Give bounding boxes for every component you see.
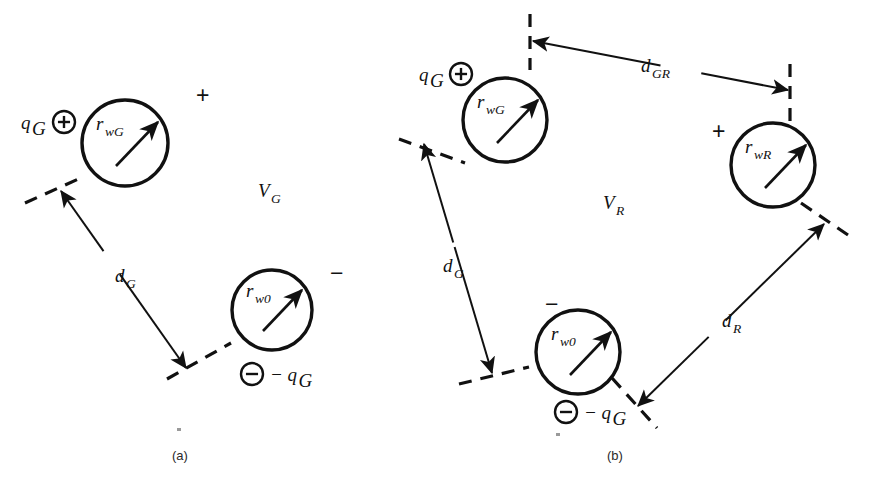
panel-b-conductor-rwg: rwG <box>463 78 547 162</box>
panel-b-tangent-dr-top <box>801 203 848 235</box>
panel-b-conductor-rwg-outline <box>463 78 547 162</box>
print-speck <box>177 428 181 431</box>
specks-layer <box>177 428 560 436</box>
panel-b-caption: (b) <box>607 448 623 463</box>
panel-a-charge-positive-qg-charge-symbol <box>53 111 75 133</box>
panel-a-distance-dg-segment-start <box>61 191 104 251</box>
panel-a-tangent-upper <box>25 176 85 203</box>
panel-a-conductor-rw0-outline <box>232 270 312 350</box>
panel-a-distance-dg-label: dG <box>115 265 136 291</box>
panel-a-polarity-minus: − <box>330 260 343 286</box>
panel-a-conductor-rw0: rw0 <box>232 270 312 350</box>
panel-b-charge-positive-qg-charge-symbol <box>450 63 472 85</box>
panels-layer: dGrwGrw0qG− qG+−VG(a)dGRdGdRrwGrwRrw0qG−… <box>21 14 848 463</box>
panel-b-distance-dr-segment-start <box>638 337 709 406</box>
panel-b-tangent-dg-top <box>399 139 465 163</box>
panel-a-tangent-lower <box>167 343 231 379</box>
panel-a-polarity-plus: + <box>196 82 209 108</box>
panel-a-charge-negative-qg-label: − qG <box>270 364 313 391</box>
panel-a: dGrwGrw0qG− qG+−VG(a) <box>21 82 343 463</box>
panel-b-potential-label: VR <box>603 192 625 218</box>
panel-a-caption: (a) <box>172 448 188 463</box>
electrostatic-configuration-figure: dGrwGrw0qG− qG+−VG(a)dGRdGdRrwGrwRrw0qG−… <box>0 0 876 491</box>
panel-b-tangent-dg-bottom <box>459 367 529 384</box>
print-speck <box>556 433 560 436</box>
panel-b-polarity-minus: − <box>545 291 558 317</box>
panel-b-polarity-plus: + <box>712 118 725 144</box>
panel-a-conductor-rwg-outline <box>82 100 168 186</box>
panel-b-conductor-rw0-outline <box>536 310 620 394</box>
figure-root: dGrwGrw0qG− qG+−VG(a)dGRdGdRrwGrwRrw0qG−… <box>0 0 876 491</box>
panel-b-distance-dgr-label: dGR <box>641 55 671 81</box>
panel-b-distance-dg-label: dG <box>443 255 464 281</box>
panel-b-charge-negative-qg-label: − qG <box>584 402 627 429</box>
panel-b-conductor-rwr: rwR <box>731 123 815 207</box>
panel-a-charge-negative-qg-charge-symbol <box>241 363 263 385</box>
panel-b-conductor-rw0: rw0 <box>536 310 620 394</box>
panel-b-distance-dr-segment-end <box>725 224 824 320</box>
panel-a-conductor-rwg: rwG <box>82 100 168 186</box>
panel-b-distance-dgr-segment-start <box>701 73 788 90</box>
panel-a-potential-label: VG <box>258 180 281 206</box>
panel-b-charge-negative-qg-charge-symbol <box>555 401 577 423</box>
panel-b: dGRdGdRrwGrwRrw0qG− qG+−VR(b) <box>399 14 848 463</box>
panel-b-charge-positive-qg-label: qG <box>419 64 444 91</box>
panel-a-charge-positive-qg-label: qG <box>21 112 46 139</box>
panel-b-conductor-rwr-outline <box>731 123 815 207</box>
